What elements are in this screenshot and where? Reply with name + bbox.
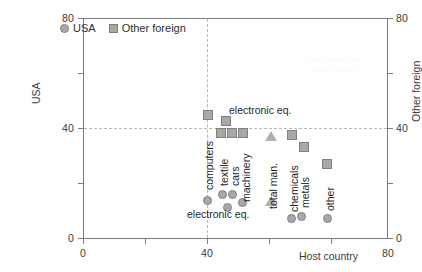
label-electronic-eq-bottom: electronic eq.: [187, 208, 249, 220]
label-total-man: total man.: [267, 163, 279, 209]
tick-label-x-40: 40: [187, 247, 227, 259]
marker-circle-computers[interactable]: [203, 196, 212, 205]
marker-square-machinery[interactable]: [238, 128, 248, 138]
marker-square-metals[interactable]: [299, 142, 309, 152]
tick-x-0: [83, 239, 84, 244]
watermark: figure watermark source credit: [296, 54, 370, 84]
tick-x-20: [145, 239, 146, 244]
marker-circle-other[interactable]: [323, 214, 332, 223]
gridline-x-40: [207, 19, 208, 238]
tick-y-left-20: [78, 183, 83, 184]
tick-y-left-60: [78, 73, 83, 74]
legend-label-usa: USA: [73, 22, 96, 34]
marker-circle-chemicals[interactable]: [287, 214, 296, 223]
tick-y-right-40: [388, 128, 393, 129]
tick-label-y-left-0: 0: [50, 232, 74, 244]
label-electronic-eq-top: electronic eq.: [229, 104, 291, 116]
label-metals: metals: [299, 177, 311, 208]
tick-y-right-0: [388, 238, 393, 239]
marker-circle-metals[interactable]: [297, 212, 306, 221]
marker-square-electronic-eq[interactable]: [221, 116, 231, 126]
tick-x-60: [269, 239, 270, 244]
tick-label-x-80: 80: [368, 247, 408, 259]
axis-title-y-left: USA: [30, 82, 42, 104]
marker-square-computers[interactable]: [203, 110, 213, 120]
legend-item-usa[interactable]: USA: [60, 22, 96, 34]
tick-label-x-0: 0: [63, 247, 103, 259]
axis-bottom: [83, 238, 388, 239]
label-machinery: machinery: [240, 154, 252, 202]
tick-x-80: [331, 239, 332, 244]
tick-label-y-right-80: 80: [396, 12, 408, 24]
tick-x-40: [207, 239, 208, 244]
tick-y-left-40: [78, 128, 83, 129]
marker-square-other[interactable]: [322, 159, 332, 169]
tick-label-y-right-40: 40: [396, 122, 408, 134]
tick-label-y-left-40: 40: [50, 122, 74, 134]
label-other: other: [324, 187, 336, 211]
axis-top: [83, 18, 388, 19]
legend: USA Other foreign: [60, 22, 186, 34]
marker-circle-textile[interactable]: [218, 190, 227, 199]
axis-title-y-right: Other foreign: [410, 61, 422, 122]
marker-circle-cars[interactable]: [228, 190, 237, 199]
tick-y-right-80: [388, 18, 393, 19]
marker-square-cars[interactable]: [227, 128, 237, 138]
tick-label-y-right-0: 0: [396, 232, 402, 244]
tick-y-right-60: [388, 73, 393, 74]
watermark-line-1: figure watermark: [296, 54, 370, 65]
axis-title-x: Host country: [299, 250, 358, 262]
legend-item-other-foreign[interactable]: Other foreign: [109, 22, 186, 34]
marker-square-textile[interactable]: [216, 128, 226, 138]
marker-triangle-total-man-upper[interactable]: [265, 131, 277, 141]
watermark-line-2: source credit: [296, 65, 370, 76]
legend-square-icon: [109, 24, 118, 33]
marker-square-chemicals[interactable]: [287, 130, 297, 140]
tick-y-right-20: [388, 183, 393, 184]
axis-left: [83, 18, 84, 239]
legend-label-other-foreign: Other foreign: [122, 22, 186, 34]
tick-y-left-80: [78, 18, 83, 19]
legend-circle-icon: [60, 24, 69, 33]
label-computers: computers: [203, 141, 215, 190]
